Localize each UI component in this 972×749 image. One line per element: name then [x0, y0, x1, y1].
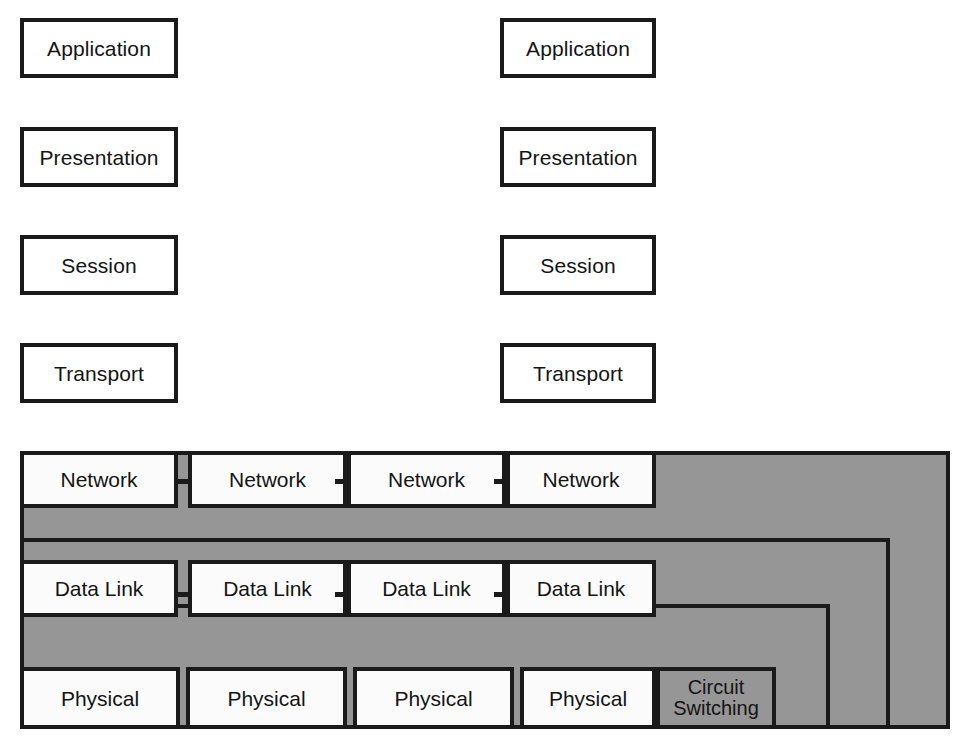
datalink-node-label-2: Data Link: [223, 578, 312, 599]
right-layer-box-session: Session: [500, 235, 656, 295]
network-node-4: Network: [506, 451, 656, 508]
datalink-node-2: Data Link: [188, 560, 347, 617]
network-node-1: Network: [20, 451, 178, 508]
datalink-node-label-3: Data Link: [382, 578, 471, 599]
region-circuit-switching: Circuit Switching: [656, 667, 776, 729]
physical-node-label-1: Physical: [61, 688, 139, 709]
osi-switching-diagram: Application Presentation Session Transpo…: [0, 0, 972, 749]
connector-datalink-1-2: [176, 592, 190, 597]
physical-node-label-2: Physical: [227, 688, 305, 709]
physical-node-4: Physical: [520, 667, 656, 729]
network-node-2: Network: [188, 451, 347, 508]
connector-datalink-3-4: [494, 592, 508, 597]
connector-network-3-4: [494, 479, 508, 484]
left-layer-box-application: Application: [20, 18, 178, 78]
datalink-node-3: Data Link: [347, 560, 506, 617]
region-label-circuit-switching: Circuit Switching: [673, 677, 759, 719]
physical-node-label-3: Physical: [394, 688, 472, 709]
datalink-node-label-1: Data Link: [55, 578, 144, 599]
connector-network-2-3: [335, 479, 349, 484]
network-node-label-2: Network: [229, 469, 306, 490]
physical-node-2: Physical: [186, 667, 347, 729]
connector-network-1-2: [176, 479, 190, 484]
right-layer-box-presentation: Presentation: [500, 127, 656, 187]
network-node-3: Network: [347, 451, 506, 508]
left-layer-label-session: Session: [61, 255, 136, 276]
physical-node-label-4: Physical: [549, 688, 627, 709]
network-node-label-1: Network: [60, 469, 137, 490]
right-layer-label-transport: Transport: [533, 363, 623, 384]
right-layer-box-transport: Transport: [500, 343, 656, 403]
left-layer-label-transport: Transport: [54, 363, 144, 384]
circuit-switching-line-1: Circuit: [688, 676, 745, 698]
right-layer-box-application: Application: [500, 18, 656, 78]
datalink-node-label-4: Data Link: [537, 578, 626, 599]
circuit-switching-line-2: Switching: [673, 697, 759, 719]
left-layer-box-presentation: Presentation: [20, 127, 178, 187]
left-layer-label-presentation: Presentation: [39, 147, 158, 168]
connector-datalink-2-3: [335, 592, 349, 597]
datalink-node-1: Data Link: [20, 560, 178, 617]
left-layer-box-transport: Transport: [20, 343, 178, 403]
left-layer-box-session: Session: [20, 235, 178, 295]
datalink-node-4: Data Link: [506, 560, 656, 617]
right-layer-label-application: Application: [526, 38, 630, 59]
physical-node-3: Physical: [353, 667, 514, 729]
right-layer-label-session: Session: [540, 255, 615, 276]
physical-node-1: Physical: [20, 667, 180, 729]
network-node-label-3: Network: [388, 469, 465, 490]
left-layer-label-application: Application: [47, 38, 151, 59]
network-node-label-4: Network: [542, 469, 619, 490]
right-layer-label-presentation: Presentation: [518, 147, 637, 168]
